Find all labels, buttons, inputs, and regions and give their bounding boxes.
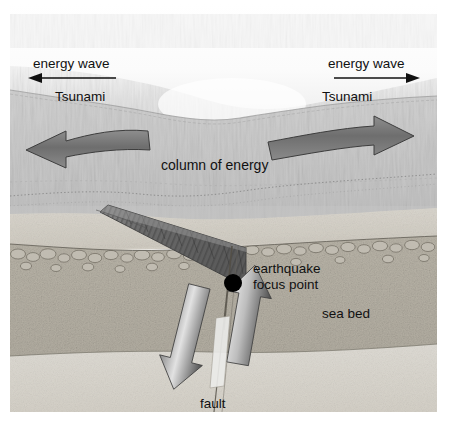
label-energy-wave-right: energy wave bbox=[328, 56, 405, 71]
label-earthquake-line1: earthquake bbox=[253, 261, 321, 276]
tsunami-diagram-figure: energy wave energy wave Tsunami Tsunami … bbox=[0, 0, 451, 439]
label-fault: fault bbox=[200, 396, 226, 411]
label-sea-bed: sea bed bbox=[322, 306, 370, 321]
focus-point-icon bbox=[224, 274, 242, 292]
diagram-canvas: energy wave energy wave Tsunami Tsunami … bbox=[0, 0, 451, 439]
label-earthquake-line2: focus point bbox=[253, 277, 319, 292]
label-tsunami-right: Tsunami bbox=[322, 89, 372, 104]
cloud-band bbox=[10, 14, 437, 48]
label-energy-wave-left: energy wave bbox=[33, 56, 110, 71]
label-column-of-energy: column of energy bbox=[161, 157, 268, 173]
label-tsunami-left: Tsunami bbox=[55, 89, 105, 104]
